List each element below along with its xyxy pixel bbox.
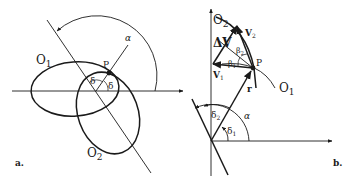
label-beta1: β1 (228, 59, 236, 69)
panel-a: O1 O2 P α δ δ a. (12, 16, 176, 173)
tangent-line-b (192, 99, 228, 175)
alpha-arc-a (57, 16, 157, 91)
label-delta1: δ1 (227, 126, 236, 137)
label-alpha-b: α (244, 111, 250, 121)
label-o1-a: O1 (36, 53, 52, 69)
label-v1: V1 (212, 70, 224, 81)
label-r: r (247, 84, 252, 94)
caption-a: a. (15, 158, 24, 168)
point-p-a (107, 71, 112, 76)
label-beta2: β2 (236, 46, 244, 56)
label-o2-a: O2 (87, 146, 103, 162)
point-p-b (251, 66, 256, 71)
label-delta-right: δ (108, 81, 113, 91)
label-v2: V2 (244, 28, 256, 39)
label-o2-b: O2 (213, 13, 229, 29)
label-alpha-a: α (125, 33, 131, 43)
beta1-arc (238, 57, 240, 66)
diagonal-line-a (47, 20, 151, 173)
label-delta-left: δ (90, 76, 95, 86)
label-delta2: δ2 (211, 110, 220, 121)
label-delta-v: ΔV (213, 36, 232, 50)
label-p-b: P (256, 58, 262, 68)
panel-b: O2 O1 P ΔV V1 V2 β1 β2 r α δ2 δ1 b. (176, 9, 342, 176)
caption-b: b. (333, 158, 342, 168)
label-o1-b: O1 (279, 81, 295, 97)
figure: O1 O2 P α δ δ a. (0, 0, 352, 181)
label-p-a: P (103, 60, 109, 70)
ellipse-o2 (65, 63, 150, 162)
